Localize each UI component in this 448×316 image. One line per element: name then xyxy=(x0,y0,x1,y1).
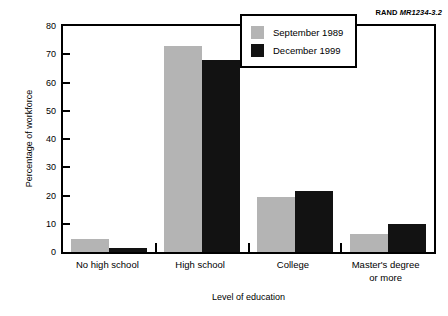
legend-swatch xyxy=(251,44,264,57)
bar xyxy=(71,239,109,252)
x-separator-mark xyxy=(155,243,157,252)
y-tick-label: 40 xyxy=(32,132,56,146)
y-tick-mark xyxy=(63,195,70,197)
bar xyxy=(202,60,240,252)
x-tick-label: No high school xyxy=(61,258,154,271)
y-tick-mark xyxy=(63,223,70,225)
x-tick-label: Master's degreeor more xyxy=(339,258,432,284)
bar xyxy=(388,224,426,252)
x-tick-label-line: or more xyxy=(339,271,432,284)
bar xyxy=(350,234,388,252)
y-tick-label: 30 xyxy=(32,160,56,174)
x-tick-label-line: No high school xyxy=(61,258,154,271)
report-org: RAND xyxy=(375,8,397,17)
report-number: MR1234-3.2 xyxy=(400,8,442,17)
legend: September 1989December 1999 xyxy=(240,14,357,68)
x-axis-title: Level of education xyxy=(61,292,436,302)
y-tick-label: 20 xyxy=(32,189,56,203)
y-tick-label: 80 xyxy=(32,19,56,33)
y-tick-mark xyxy=(63,82,70,84)
y-tick-label: 0 xyxy=(32,245,56,259)
y-tick-label: 10 xyxy=(32,217,56,231)
x-separator-mark xyxy=(248,243,250,252)
x-separator-mark xyxy=(340,243,342,252)
legend-label: September 1989 xyxy=(273,27,343,38)
legend-swatch xyxy=(251,26,264,39)
x-tick-label: High school xyxy=(154,258,247,271)
legend-label: December 1999 xyxy=(273,45,341,56)
bar xyxy=(164,46,202,252)
y-tick-label: 60 xyxy=(32,76,56,90)
y-tick-mark xyxy=(63,166,70,168)
y-tick-label: 70 xyxy=(32,47,56,61)
x-tick-label-line: College xyxy=(247,258,340,271)
legend-item: September 1989 xyxy=(251,23,343,41)
bar xyxy=(295,191,333,252)
x-tick-label-line: Master's degree xyxy=(339,258,432,271)
y-tick-label: 50 xyxy=(32,104,56,118)
legend-item: December 1999 xyxy=(251,41,343,59)
y-axis-tick-labels: 01020304050607080 xyxy=(32,17,56,257)
bar xyxy=(257,197,295,252)
y-tick-mark xyxy=(63,138,70,140)
x-tick-label-line: High school xyxy=(154,258,247,271)
y-tick-mark xyxy=(63,53,70,55)
x-tick-label: College xyxy=(247,258,340,271)
report-id: RAND MR1234-3.2 xyxy=(375,8,442,17)
y-tick-mark xyxy=(63,110,70,112)
bar xyxy=(109,248,147,252)
